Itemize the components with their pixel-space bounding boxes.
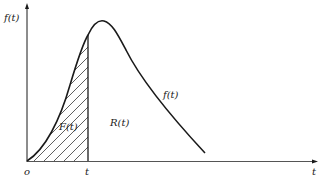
x-axis-label: t: [312, 166, 317, 177]
x-axis-arrow-icon: [312, 160, 318, 164]
curve-label: f(t): [162, 89, 179, 100]
unshaded-region-label: R(t): [109, 117, 129, 128]
t-marker-label: t: [85, 166, 90, 177]
hatched-region: [0, 35, 140, 175]
y-axis-label: f(t): [3, 12, 20, 23]
reliability-diagram: f(t) t o t f(t) F(t) R(t): [0, 0, 322, 186]
y-axis-arrow-icon: [25, 3, 29, 9]
shaded-region-label: F(t): [58, 121, 78, 132]
origin-label: o: [24, 166, 30, 177]
